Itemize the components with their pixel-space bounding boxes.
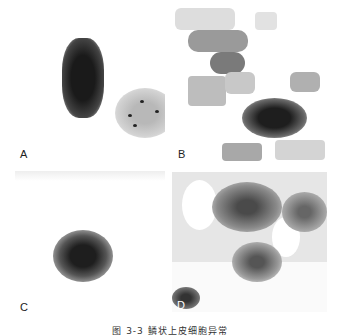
squamous-cell-group: [115, 88, 165, 138]
panel-label: B: [178, 148, 185, 160]
panel-c: C: [0, 168, 165, 313]
panel-d: D: [172, 172, 327, 312]
panel-a: A: [0, 0, 165, 165]
panel-label: A: [20, 148, 27, 160]
dark-cell-cluster: [242, 98, 307, 138]
dark-cell-cluster: [53, 230, 113, 282]
panel-label: C: [20, 301, 28, 313]
dark-cell-cluster: [62, 38, 104, 118]
panel-label: D: [177, 299, 185, 311]
panel-b: B: [170, 0, 330, 165]
figure-caption: 图 3-3 鳞状上皮细胞异常: [0, 324, 340, 336]
